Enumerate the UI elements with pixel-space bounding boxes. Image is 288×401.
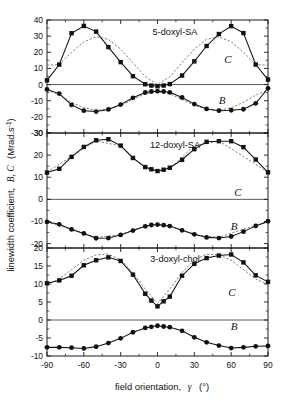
data-point-C <box>57 278 61 282</box>
y-tick-label: 40 <box>34 15 44 25</box>
y-tick-label: -10 <box>31 216 43 226</box>
data-point-B <box>192 102 197 107</box>
data-point-C <box>229 252 233 256</box>
data-point-B <box>45 220 50 225</box>
data-point-B <box>57 222 62 227</box>
data-point-C <box>149 83 153 87</box>
y-tick-label: 20 <box>34 243 44 253</box>
data-point-B <box>69 345 74 350</box>
data-point-B <box>149 223 154 228</box>
data-point-B <box>94 344 99 349</box>
data-point-C <box>149 167 153 171</box>
data-point-C <box>204 44 208 48</box>
data-point-B <box>167 325 172 330</box>
data-point-B <box>204 235 209 240</box>
y-tick-label: 0 <box>38 80 43 90</box>
data-point-C <box>204 256 208 260</box>
x-tick-label: -60 <box>78 360 90 370</box>
data-point-B <box>69 103 74 108</box>
data-point-C <box>204 140 208 144</box>
data-point-B <box>69 227 74 232</box>
data-point-C <box>94 138 98 142</box>
data-point-B <box>161 223 166 228</box>
data-point-C <box>69 155 73 159</box>
data-point-B <box>149 324 154 329</box>
data-point-C <box>155 169 159 173</box>
y-tick-label: 0 <box>38 194 43 204</box>
data-point-B <box>106 341 111 346</box>
data-point-B <box>155 323 160 328</box>
data-point-C <box>118 143 122 147</box>
data-point-B <box>106 107 111 112</box>
data-point-C <box>45 78 49 82</box>
x-tick-label: 30 <box>190 360 200 370</box>
data-point-B <box>229 234 234 239</box>
data-point-C <box>254 62 258 66</box>
x-tick-label: 0 <box>155 360 160 370</box>
data-point-C <box>229 139 233 143</box>
data-point-B <box>253 344 258 349</box>
data-point-B <box>216 236 221 241</box>
data-point-C <box>180 73 184 77</box>
data-point-C <box>94 29 98 33</box>
y-tick-label: -10 <box>31 96 43 106</box>
data-point-B <box>253 223 258 228</box>
data-point-B <box>266 86 271 91</box>
x-axis-title-main: field orientation, <box>115 381 181 392</box>
curve-label-B: B <box>231 320 238 332</box>
panel-title-3: 3-doxyl-chol <box>150 254 200 264</box>
data-point-C <box>168 294 172 298</box>
x-tick-label: -30 <box>115 360 127 370</box>
data-point-B <box>180 328 185 333</box>
data-point-B <box>94 109 99 114</box>
data-point-C <box>168 166 172 170</box>
data-point-B <box>45 345 50 350</box>
data-point-C <box>180 158 184 162</box>
data-point-C <box>82 145 86 149</box>
data-point-C <box>69 31 73 35</box>
data-point-C <box>161 83 165 87</box>
data-point-B <box>155 89 160 94</box>
data-point-C <box>155 304 159 308</box>
data-point-C <box>106 45 110 49</box>
data-point-C <box>254 273 258 277</box>
x-tick-label: 60 <box>227 360 237 370</box>
figure-container: linewidth coefficient, B, C (Mrad.s-1) 4… <box>0 0 288 401</box>
data-point-B <box>241 107 246 112</box>
data-point-B <box>81 346 86 351</box>
data-point-B <box>216 108 221 113</box>
data-point-C <box>180 274 184 278</box>
y-tick-label: 0 <box>38 315 43 325</box>
data-point-B <box>204 107 209 112</box>
panel-title-2: 12-doxyl-SA <box>150 140 201 150</box>
curve-label-C: C <box>234 186 242 198</box>
y-axis-title: linewidth coefficient, B, C (Mrad.s-1) <box>5 118 16 271</box>
data-point-C <box>118 259 122 263</box>
y-tick-label: 10 <box>34 172 44 182</box>
data-point-B <box>216 343 221 348</box>
data-point-C <box>57 62 61 66</box>
data-point-C <box>82 24 86 28</box>
data-point-B <box>149 89 154 94</box>
data-point-C <box>149 298 153 302</box>
data-point-C <box>161 299 165 303</box>
data-point-B <box>167 90 172 95</box>
y-axis-title-main: linewidth coefficient, <box>5 188 16 272</box>
y-tick-label: 30 <box>34 31 44 41</box>
data-point-B <box>167 224 172 229</box>
y-tick-label: 5 <box>38 297 43 307</box>
svg-text:linewidth coefficient,: linewidth coefficient, B, C (Mrad.s-1) <box>5 118 16 271</box>
data-point-C <box>57 167 61 171</box>
data-point-B <box>192 335 197 340</box>
data-point-C <box>143 165 147 169</box>
data-point-B <box>192 232 197 237</box>
data-point-C <box>131 272 135 276</box>
data-point-B <box>143 326 148 331</box>
data-point-B <box>266 344 271 349</box>
data-point-B <box>266 219 271 224</box>
curve-label-B: B <box>219 94 226 106</box>
data-point-B <box>161 89 166 94</box>
multi-panel-line-chart: linewidth coefficient, B, C (Mrad.s-1) 4… <box>0 0 288 401</box>
data-point-B <box>241 345 246 350</box>
data-point-C <box>266 77 270 81</box>
